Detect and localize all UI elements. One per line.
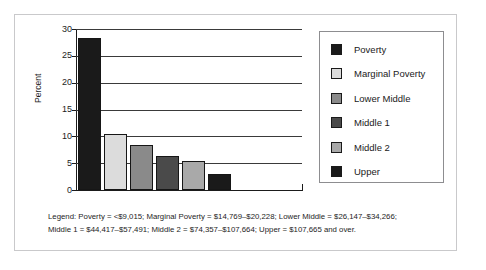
figure-frame: Percent 051015202530 PovertyMarginal Pov… <box>14 14 457 251</box>
legend-item-label: Middle 2 <box>354 142 390 153</box>
bar <box>156 156 179 190</box>
legend-swatch-icon <box>331 68 342 79</box>
legend-item-upper: Upper <box>331 166 380 178</box>
x-axis-line <box>76 190 303 191</box>
legend-item-middle-2: Middle 2 <box>331 141 390 153</box>
bar <box>182 161 205 190</box>
y-axis-tick-label: 20 <box>62 78 72 87</box>
bar <box>78 38 101 190</box>
chart-caption: Legend: Poverty = <$9,015; Marginal Pove… <box>48 211 443 236</box>
legend-swatch-icon <box>331 93 342 104</box>
legend-item-label: Marginal Poverty <box>354 68 425 79</box>
bar-series <box>76 29 302 190</box>
legend-item-label: Middle 1 <box>354 117 390 128</box>
bar <box>208 174 231 190</box>
bar <box>130 145 153 190</box>
y-axis-tick-label: 30 <box>62 25 72 34</box>
bar <box>104 134 127 190</box>
legend-item-middle-1: Middle 1 <box>331 117 390 129</box>
legend-item-label: Poverty <box>354 44 386 55</box>
legend-swatch-icon <box>331 166 342 177</box>
caption-line-1: Legend: Poverty = <$9,015; Marginal Pove… <box>48 211 443 224</box>
legend-swatch-icon <box>331 142 342 153</box>
y-axis-tick-labels: 051015202530 <box>51 29 72 191</box>
legend-swatch-icon <box>331 44 342 55</box>
y-axis-title: Percent <box>33 74 43 103</box>
caption-line-2: Middle 1 = $44,417–$57,491; Middle 2 = $… <box>48 224 443 237</box>
y-axis-tick-label: 10 <box>62 132 72 141</box>
y-axis-tick <box>72 190 76 191</box>
legend-item-poverty: Poverty <box>331 43 386 55</box>
legend-item-lower-middle: Lower Middle <box>331 92 411 104</box>
y-axis-tick-label: 25 <box>62 51 72 60</box>
legend-item-label: Upper <box>354 166 380 177</box>
y-axis-tick-label: 15 <box>62 105 72 114</box>
x-axis-end-cap <box>302 184 303 191</box>
chart-legend: PovertyMarginal PovertyLower MiddleMiddl… <box>319 31 444 183</box>
legend-swatch-icon <box>331 117 342 128</box>
legend-item-marginal-poverty: Marginal Poverty <box>331 68 425 80</box>
plot-area <box>76 29 302 190</box>
legend-item-label: Lower Middle <box>354 93 411 104</box>
scan-top-artifact <box>52 0 172 9</box>
